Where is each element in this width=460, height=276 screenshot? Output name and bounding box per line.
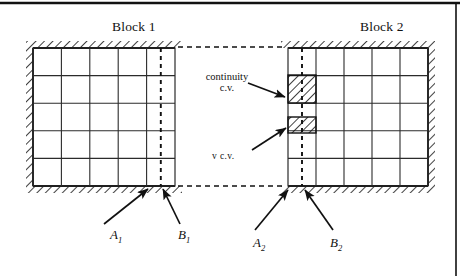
v-cv-region [288, 117, 316, 133]
block-2-wall-bottom [281, 186, 435, 193]
label-a2-arrow [255, 190, 288, 230]
label-a1-subscript: 1 [118, 235, 122, 245]
block-1-title: Block 1 [112, 20, 156, 34]
label-b2-text: B [330, 235, 338, 250]
label-a2: A2 [253, 236, 265, 253]
figure-page: Block 1 Block 2 continuity c.v. v c.v. A… [0, 0, 460, 276]
label-a1-arrow [104, 189, 148, 224]
block-1-wall-top [26, 41, 182, 48]
label-a1: A1 [110, 228, 122, 245]
blocks-layer [26, 41, 435, 193]
v-cv-arrow [252, 128, 286, 150]
continuity-cv [288, 75, 316, 103]
label-a2-subscript: 2 [261, 243, 265, 253]
label-b2-subscript: 2 [338, 243, 342, 253]
annotation-arrows [104, 189, 333, 230]
continuity-cv-region [288, 75, 316, 103]
block-2-title: Block 2 [360, 20, 404, 34]
control-volume-layer [248, 75, 316, 150]
label-b2-arrow [305, 190, 333, 230]
block-1-wall-left [26, 48, 33, 186]
v-cv [288, 117, 316, 133]
block-2-wall-top [281, 41, 435, 48]
label-a2-text: A [253, 235, 261, 250]
block-1-wall-bottom [26, 186, 182, 193]
block-1 [26, 41, 182, 193]
interface-dashed-lines [178, 47, 286, 186]
label-b1-subscript: 1 [186, 235, 190, 245]
block-1-grid-frame [33, 48, 175, 186]
continuity-cv-label-line2: c.v. [220, 82, 234, 93]
block-2-wall-right [428, 48, 435, 186]
v-cv-label: v c.v. [212, 152, 258, 162]
label-b1-arrow [163, 189, 180, 224]
continuity-cv-label: continuity c.v. [196, 71, 258, 93]
continuity-cv-label-line1: continuity [206, 71, 249, 82]
label-b1: B1 [178, 228, 190, 245]
label-a1-text: A [110, 227, 118, 242]
label-b2: B2 [330, 236, 342, 253]
label-b1-text: B [178, 227, 186, 242]
block-interface-diagram [0, 0, 460, 276]
